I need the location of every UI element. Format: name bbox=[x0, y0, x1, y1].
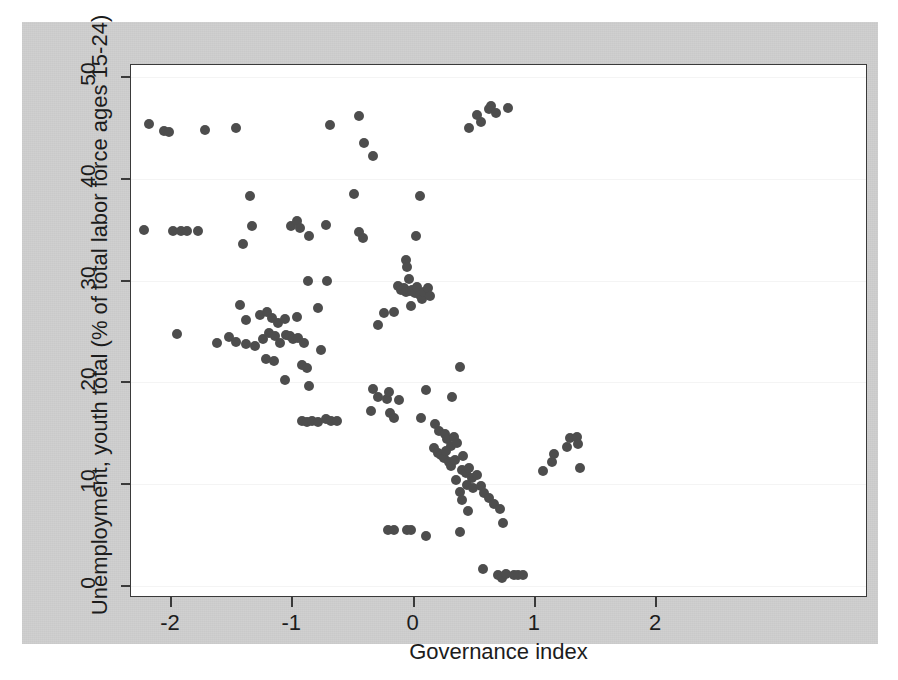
scatter-point bbox=[447, 392, 457, 402]
x-axis-tick-label: 2 bbox=[649, 610, 661, 636]
x-axis-tick bbox=[413, 597, 415, 607]
scatter-point bbox=[325, 120, 335, 130]
x-axis-tick bbox=[291, 597, 293, 607]
scatter-point bbox=[172, 329, 182, 339]
scatter-point bbox=[441, 446, 451, 456]
figure-canvas: Unemployment, youth total (% of total la… bbox=[22, 22, 878, 644]
scatter-point bbox=[280, 314, 290, 324]
scatter-point bbox=[476, 117, 486, 127]
scatter-point bbox=[452, 438, 462, 448]
scatter-point bbox=[389, 307, 399, 317]
scatter-point bbox=[366, 406, 376, 416]
scatter-point bbox=[415, 191, 425, 201]
scatter-point bbox=[478, 564, 488, 574]
scatter-point bbox=[373, 320, 383, 330]
scatter-point bbox=[538, 466, 548, 476]
scatter-point bbox=[549, 449, 559, 459]
scatter-point bbox=[302, 363, 312, 373]
scatter-point bbox=[472, 470, 482, 480]
scatter-point bbox=[464, 123, 474, 133]
scatter-point bbox=[455, 362, 465, 372]
scatter-point bbox=[495, 504, 505, 514]
scatter-point bbox=[358, 233, 368, 243]
scatter-point bbox=[322, 276, 332, 286]
y-axis-tick-label-text: 0 bbox=[76, 577, 100, 589]
scatter-point bbox=[349, 189, 359, 199]
y-axis-tick-label: 10 bbox=[60, 469, 116, 493]
scatter-point bbox=[292, 312, 302, 322]
y-axis-tick bbox=[121, 280, 130, 282]
scatter-point bbox=[250, 341, 260, 351]
scatter-point bbox=[212, 338, 222, 348]
y-axis-tick bbox=[121, 585, 130, 587]
scatter-point bbox=[231, 337, 241, 347]
scatter-point bbox=[406, 301, 416, 311]
scatter-point bbox=[321, 220, 331, 230]
scatter-point bbox=[562, 442, 572, 452]
scatter-point bbox=[295, 223, 305, 233]
scatter-points-layer bbox=[131, 65, 866, 596]
scatter-point bbox=[389, 413, 399, 423]
scatter-point bbox=[269, 356, 279, 366]
scatter-point bbox=[313, 303, 323, 313]
x-axis-tick bbox=[534, 597, 536, 607]
scatter-point bbox=[416, 413, 426, 423]
y-axis-tick-label: 20 bbox=[60, 367, 116, 391]
x-axis-tick bbox=[170, 597, 172, 607]
scatter-point bbox=[280, 375, 290, 385]
scatter-point bbox=[359, 138, 369, 148]
y-axis-tick-label-text: 20 bbox=[76, 368, 100, 391]
y-axis-tick-label-text: 30 bbox=[76, 266, 100, 289]
scatter-point bbox=[402, 262, 412, 272]
scatter-point bbox=[354, 111, 364, 121]
figure-root: Unemployment, youth total (% of total la… bbox=[0, 0, 898, 680]
scatter-point bbox=[455, 527, 465, 537]
x-axis-tick bbox=[655, 597, 657, 607]
x-axis-tick-label: 1 bbox=[528, 610, 540, 636]
scatter-point bbox=[425, 291, 435, 301]
scatter-point bbox=[498, 518, 508, 528]
y-axis-tick bbox=[121, 483, 130, 485]
scatter-point bbox=[316, 345, 326, 355]
scatter-point bbox=[332, 416, 342, 426]
scatter-point bbox=[379, 308, 389, 318]
scatter-point bbox=[404, 274, 414, 284]
scatter-point bbox=[389, 525, 399, 535]
y-axis-tick-label-text: 40 bbox=[76, 164, 100, 187]
y-axis-tick-label-text: 10 bbox=[76, 470, 100, 493]
y-axis-tick bbox=[121, 381, 130, 383]
scatter-point bbox=[299, 338, 309, 348]
y-axis-tick-label: 30 bbox=[60, 266, 116, 290]
scatter-point bbox=[411, 231, 421, 241]
scatter-point bbox=[463, 506, 473, 516]
scatter-point bbox=[235, 300, 245, 310]
scatter-point bbox=[200, 125, 210, 135]
scatter-point bbox=[573, 439, 583, 449]
scatter-point bbox=[144, 119, 154, 129]
scatter-point bbox=[421, 385, 431, 395]
x-axis-tick-label: -1 bbox=[281, 610, 301, 636]
scatter-point bbox=[304, 381, 314, 391]
scatter-point bbox=[518, 570, 528, 580]
y-axis-tick-label: 0 bbox=[60, 571, 116, 595]
x-axis-tick-label: 0 bbox=[406, 610, 418, 636]
scatter-point bbox=[451, 475, 461, 485]
scatter-point bbox=[491, 108, 501, 118]
scatter-point bbox=[193, 226, 203, 236]
y-axis-tick bbox=[121, 76, 130, 78]
y-axis-tick-label: 40 bbox=[60, 164, 116, 188]
scatter-point bbox=[139, 225, 149, 235]
scatter-point bbox=[247, 221, 257, 231]
scatter-point bbox=[394, 395, 404, 405]
scatter-point bbox=[304, 231, 314, 241]
scatter-point bbox=[368, 151, 378, 161]
scatter-point bbox=[164, 127, 174, 137]
scatter-point bbox=[457, 495, 467, 505]
scatter-point bbox=[503, 103, 513, 113]
y-axis-tick bbox=[121, 178, 130, 180]
scatter-point bbox=[303, 276, 313, 286]
scatter-point bbox=[231, 123, 241, 133]
scatter-point bbox=[458, 451, 468, 461]
x-axis-tick-label: -2 bbox=[160, 610, 180, 636]
y-axis-tick-label: 50 bbox=[60, 62, 116, 86]
